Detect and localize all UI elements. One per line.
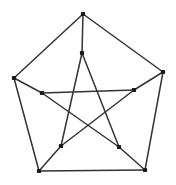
graph-canvas bbox=[0, 0, 176, 185]
graph-vertex-outer-left bbox=[12, 76, 16, 80]
graph-vertex-inner-bottom-right bbox=[117, 145, 121, 149]
graph-vertex-inner-bottom-left bbox=[59, 144, 63, 148]
graph-vertex-outer-bottom-left bbox=[37, 169, 41, 173]
graph-vertex-inner-top bbox=[80, 51, 84, 55]
graph-vertex-outer-top bbox=[81, 12, 85, 16]
graph-vertex-inner-left bbox=[40, 91, 44, 95]
graph-vertex-inner-right bbox=[132, 88, 136, 92]
graph-vertex-outer-right bbox=[161, 70, 165, 74]
graph-edge-spoke-top bbox=[82, 14, 83, 53]
graph-edge-pentagon-bottomright-bottomleft bbox=[39, 170, 145, 171]
diagram-background bbox=[0, 0, 176, 185]
petersen-graph-diagram bbox=[0, 0, 176, 185]
graph-vertex-outer-bottom-right bbox=[143, 168, 147, 172]
